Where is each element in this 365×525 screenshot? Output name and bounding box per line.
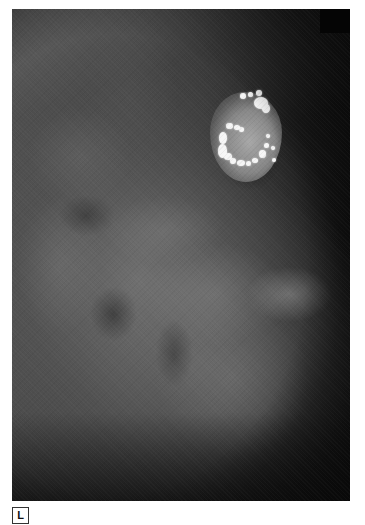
mammogram-image [12, 9, 350, 501]
laterality-label: L [12, 507, 29, 524]
figure-page: L [0, 0, 365, 525]
film-corner-marker [320, 9, 350, 33]
film-grain [12, 9, 350, 501]
